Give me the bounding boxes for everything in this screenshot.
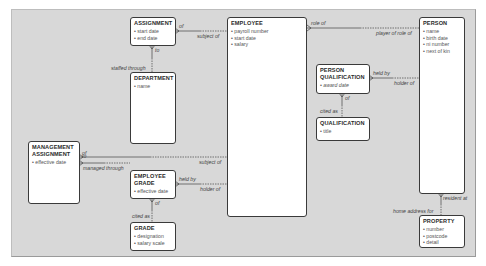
rel-label: player of role of xyxy=(376,30,412,36)
rel-label: of xyxy=(155,200,159,206)
rel-label: of xyxy=(82,150,86,156)
attribute: effective date xyxy=(134,188,172,195)
entity-name-line: GRADE xyxy=(134,180,172,187)
entity-name: PERSON xyxy=(423,20,461,27)
entity-name-line: ASSIGNMENT xyxy=(32,151,76,158)
attribute: title xyxy=(320,128,366,135)
attribute: detail xyxy=(423,239,461,246)
attribute: number xyxy=(423,226,461,233)
entity-name: ASSIGNMENT xyxy=(134,20,172,27)
attribute: salary xyxy=(231,41,303,48)
attribute: birth date xyxy=(423,35,461,42)
rel-label: managed through xyxy=(83,165,124,171)
rel-label: cited as xyxy=(320,108,338,114)
rel-label: held by xyxy=(179,176,196,182)
attribute: start date xyxy=(134,28,172,35)
rel-label: staffed through xyxy=(111,65,146,71)
rel-label: of xyxy=(179,23,183,29)
entity-person-qualification[interactable]: PERSON QUALIFICATION award date xyxy=(316,64,370,94)
attribute: end date xyxy=(134,35,172,42)
rel-label: home address for xyxy=(393,208,433,214)
rel-label: to xyxy=(155,47,159,53)
entity-grade[interactable]: GRADE designation salary scale xyxy=(130,222,176,251)
attribute: ni number xyxy=(423,41,461,48)
entity-employee[interactable]: EMPLOYEE payroll number start date salar… xyxy=(227,17,307,217)
attribute: designation xyxy=(134,233,172,240)
entity-name: DEPARTMENT xyxy=(134,75,172,82)
entity-management-assignment[interactable]: MANAGEMENT ASSIGNMENT effective date xyxy=(28,141,80,204)
entity-name: PROPERTY xyxy=(423,218,461,225)
attribute: award date xyxy=(320,82,366,89)
attribute: name xyxy=(423,28,461,35)
rel-label: cited as xyxy=(132,213,150,219)
rel-label: held by xyxy=(373,70,390,76)
entity-property[interactable]: PROPERTY number postcode detail xyxy=(419,215,465,248)
entity-qualification[interactable]: QUALIFICATION title xyxy=(316,117,370,141)
attribute: effective date xyxy=(32,159,76,166)
entity-name: EMPLOYEE xyxy=(231,20,303,27)
attribute: payroll number xyxy=(231,28,303,35)
entity-person[interactable]: PERSON name birth date ni number next of… xyxy=(419,17,465,194)
entity-name-line: QUALIFICATION xyxy=(320,74,366,81)
entity-name: GRADE xyxy=(134,225,172,232)
rel-label: holder of xyxy=(394,80,414,86)
attribute: salary scale xyxy=(134,240,172,247)
entity-name-line: EMPLOYEE xyxy=(134,173,172,180)
entity-name: QUALIFICATION xyxy=(320,120,366,127)
attribute: next of kin xyxy=(423,48,461,55)
entity-department[interactable]: DEPARTMENT name xyxy=(130,72,176,144)
attribute: name xyxy=(134,83,172,90)
entity-name-line: MANAGEMENT xyxy=(32,144,76,151)
rel-label: resident at xyxy=(443,195,467,201)
rel-label: role of xyxy=(311,20,325,26)
rel-label: subject of xyxy=(197,33,219,39)
rel-label: subject of xyxy=(199,159,221,165)
attribute: postcode xyxy=(423,233,461,240)
entity-assignment[interactable]: ASSIGNMENT start date end date xyxy=(130,17,176,46)
rel-label: of xyxy=(345,95,349,101)
entity-name-line: PERSON xyxy=(320,67,366,74)
attribute: start date xyxy=(231,35,303,42)
rel-label: holder of xyxy=(200,186,220,192)
entity-employee-grade[interactable]: EMPLOYEE GRADE effective date xyxy=(130,170,176,199)
